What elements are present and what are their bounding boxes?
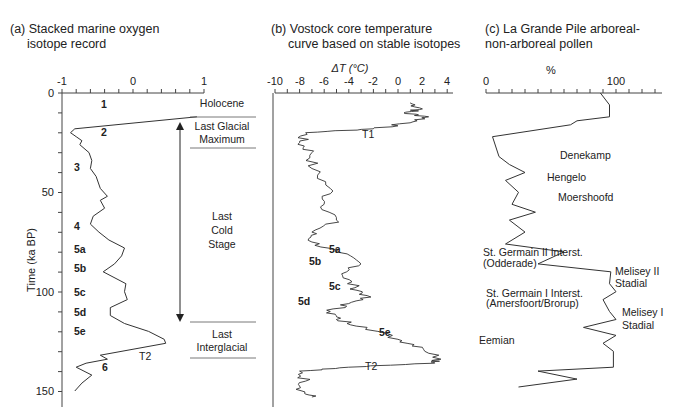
stage-label-5c: 5c <box>74 286 86 298</box>
stage-label-5a: 5a <box>74 243 86 255</box>
eemian-label: Eemian <box>479 334 515 346</box>
holocene-label: Holocene <box>200 97 245 109</box>
b-stage-label-5a: 5a <box>329 243 341 255</box>
panel-b-xtick: 2 <box>419 75 425 87</box>
moershoofd-label: Moershoofd <box>558 191 614 203</box>
b-stage-label-5c: 5c <box>329 280 341 292</box>
panel-a-ytick-50: 50 <box>42 186 54 198</box>
panel-b-xtick: -8 <box>295 75 305 87</box>
figure: -1 0 1 0 50 100 150 Time (ka BP) 1 2 3 4… <box>0 0 687 420</box>
last-cold-stage-label-line2: Cold <box>211 224 233 236</box>
panel-b: ΔT (°C) -10 -8 -6 -4 -2 0 2 4 5a 5b 5c 5… <box>267 62 453 407</box>
b-stage-label-5d: 5d <box>298 295 310 307</box>
b-t1-label: T1 <box>362 128 374 140</box>
panel-a-y-axis <box>58 93 62 407</box>
b-stage-label-5e: 5e <box>379 326 391 338</box>
panel-b-xtick: -6 <box>319 75 329 87</box>
last-interglacial-label-line2: Interglacial <box>197 341 248 353</box>
panel-c: % 0 100 Denekamp Hengelo Moershoofd St. … <box>479 64 663 387</box>
b-stage-label-5b: 5b <box>309 255 321 267</box>
melisey-i-label-line2: Stadial <box>622 319 654 331</box>
panel-a: -1 0 1 0 50 100 150 Time (ka BP) 1 2 3 4… <box>25 75 256 407</box>
panel-a-y-label: Time (ka BP) <box>25 228 37 292</box>
last-cold-stage-label-line1: Last <box>212 210 232 222</box>
stage-label-4: 4 <box>74 220 80 232</box>
panel-b-x-axis <box>275 89 453 93</box>
panel-a-ytick-0: 0 <box>48 87 54 99</box>
panel-a-xtick-1: 1 <box>201 75 207 87</box>
stage-label-1: 1 <box>101 98 107 110</box>
lgm-label-line1: Last Glacial <box>195 120 250 132</box>
panel-a-xtick-neg1: -1 <box>57 75 67 87</box>
denekamp-label: Denekamp <box>560 149 611 161</box>
melisey-i-label-line1: Melisey I <box>622 306 663 318</box>
last-cold-stage-label-line3: Stage <box>208 238 236 250</box>
panel-c-x-label: % <box>546 64 556 76</box>
stage-label-3: 3 <box>74 161 80 173</box>
panel-a-x-axis <box>62 89 204 93</box>
b-t2-label: T2 <box>365 360 377 372</box>
panel-a-ytick-150: 150 <box>36 385 54 397</box>
melisey-ii-label-line1: Melisey II <box>615 265 659 277</box>
panel-b-xtick: -4 <box>344 75 354 87</box>
stage-label-5e: 5e <box>74 325 86 337</box>
panel-a-xtick-0: 0 <box>130 75 136 87</box>
panel-c-xtick-100: 100 <box>607 75 625 87</box>
stage-label-5d: 5d <box>74 306 86 318</box>
panel-a-isotope-curve <box>71 117 197 391</box>
st-germain-i-label-line2: (Amersfoort/Brorup) <box>486 297 579 309</box>
hengelo-label: Hengelo <box>547 171 586 183</box>
panel-c-annotations: Denekamp Hengelo Moershoofd St. Germain … <box>479 149 663 346</box>
last-interglacial-label-line1: Last <box>212 328 232 340</box>
panel-a-ytick-100: 100 <box>36 286 54 298</box>
stage-label-5b: 5b <box>74 262 86 274</box>
panel-b-stage-labels: 5a 5b 5c 5d 5e <box>298 243 391 338</box>
panel-b-x-label: ΔT (°C) <box>331 62 369 74</box>
lgm-label-line2: Maximum <box>199 133 245 145</box>
panel-c-xtick-0: 0 <box>483 75 489 87</box>
stage-label-6: 6 <box>102 361 108 373</box>
st-germain-ii-label-line2: (Odderade) <box>483 257 537 269</box>
panel-b-temperature-curve <box>296 103 441 397</box>
panel-c-x-axis <box>486 89 662 93</box>
panel-b-xtick: 0 <box>395 75 401 87</box>
stage-label-2: 2 <box>101 126 107 138</box>
panel-b-xtick: -10 <box>267 75 283 87</box>
panel-b-xtick: -2 <box>368 75 378 87</box>
panel-b-x-tick-labels: -10 -8 -6 -4 -2 0 2 4 <box>267 75 450 87</box>
panel-a-t2-label: T2 <box>139 350 151 362</box>
panel-b-xtick: 4 <box>444 75 450 87</box>
melisey-ii-label-line2: Stadial <box>615 277 647 289</box>
panel-a-period-labels: Holocene Last Glacial Maximum Last Cold … <box>195 97 250 353</box>
